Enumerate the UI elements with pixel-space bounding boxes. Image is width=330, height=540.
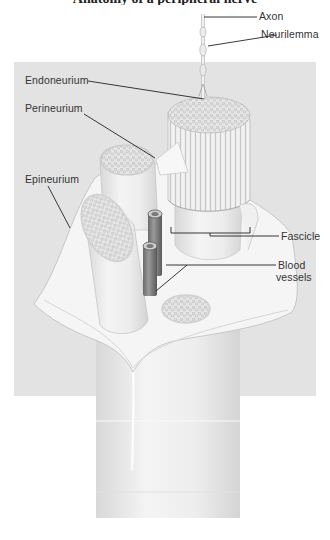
label-neurilemma: Neurilemma [261, 28, 319, 40]
label-blood-vessels-line1: Blood [278, 259, 305, 271]
label-fascicle: Fascicle [281, 230, 320, 242]
label-blood-vessels-line2: vessels [276, 271, 312, 283]
label-endoneurium: Endoneurium [25, 74, 89, 86]
fascicle-bottom-small [162, 295, 210, 323]
label-axon: Axon [259, 10, 283, 22]
endoneurium-leader-line [88, 81, 204, 99]
epineurium-sheet [34, 163, 297, 372]
nerve-trunk [96, 330, 240, 518]
label-perineurium: Perineurium [25, 102, 83, 114]
label-epineurium: Epineurium [25, 173, 79, 185]
axon-strand [199, 14, 207, 100]
epineurium-leader-line [48, 186, 70, 228]
